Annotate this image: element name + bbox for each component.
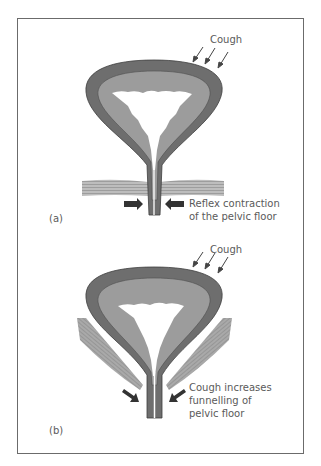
annotation-a-line2: of the pelvic floor <box>189 211 277 223</box>
annotation-a-line1: Reflex contraction <box>189 198 280 210</box>
pelvic-floor-muscle <box>82 180 148 196</box>
panel-a <box>82 47 228 215</box>
annotation-b-line2: funnelling of <box>189 395 252 407</box>
panel-label-a: (a) <box>49 213 63 224</box>
panel-label-b: (b) <box>49 425 63 436</box>
cough-arrows-icon <box>193 47 228 68</box>
annotation-b-line3: pelvic floor <box>189 408 244 420</box>
bladder-diagram <box>0 0 321 466</box>
annotation-b-line1: Cough increases <box>189 382 272 394</box>
cough-label-a: Cough <box>210 34 242 46</box>
cough-label-b: Cough <box>210 244 242 256</box>
